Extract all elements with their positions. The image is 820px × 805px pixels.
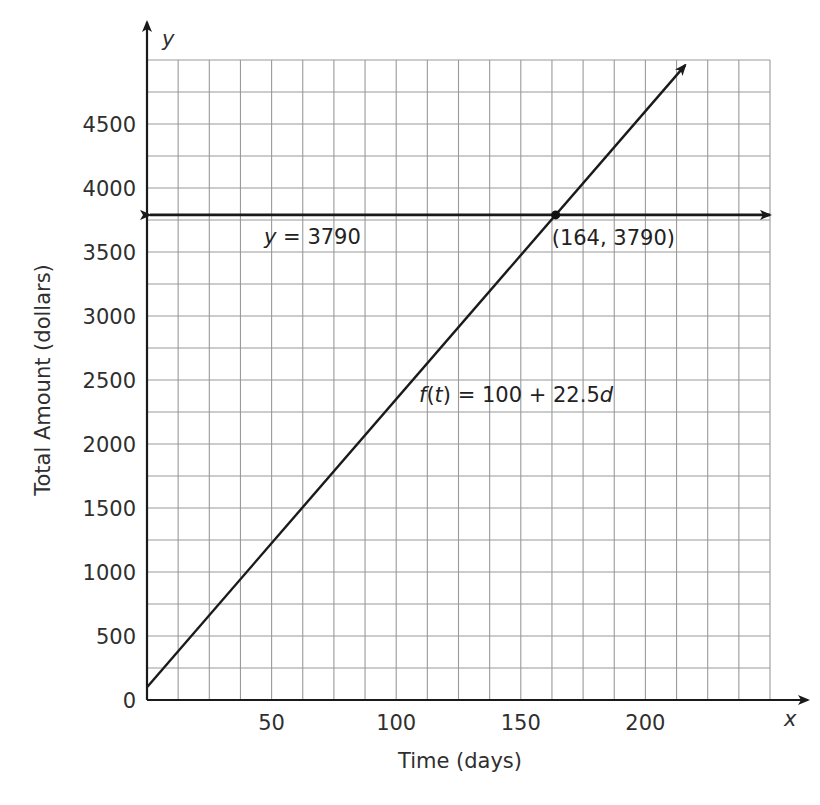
label-y: y: [263, 225, 277, 249]
y-tick-label: 2000: [83, 433, 136, 457]
y-tick-label: 1500: [83, 497, 136, 521]
axes: y x: [147, 22, 808, 731]
x-tick-label: 100: [376, 711, 416, 735]
y-tick-label: 4000: [83, 177, 136, 201]
label-rest: ) = 100 + 22.5: [443, 383, 600, 407]
y-tick-label: 2500: [83, 369, 136, 393]
y-tick-labels: 050010001500200025003000350040004500: [83, 113, 136, 713]
y-axis-title: Total Amount (dollars): [31, 264, 55, 497]
y-tick-label: 4500: [83, 113, 136, 137]
y-tick-label: 500: [96, 625, 136, 649]
x-tick-labels: 50100150200: [258, 711, 665, 735]
linear-function-series: [147, 65, 685, 687]
y-tick-label: 0: [123, 689, 136, 713]
y-tick-label: 3000: [83, 305, 136, 329]
function-label: f(t) = 100 + 22.5d: [419, 383, 614, 407]
x-tick-label: 200: [625, 711, 665, 735]
horizontal-line-label: y = 3790: [263, 225, 361, 249]
x-axis-symbol: x: [783, 707, 797, 731]
y-tick-label: 3500: [83, 241, 136, 265]
label-d: d: [600, 383, 614, 407]
intersection-point-label: (164, 3790): [552, 226, 675, 250]
intersection-point: [551, 210, 560, 219]
label-rest: = 3790: [276, 225, 360, 249]
y-axis-symbol: y: [161, 27, 175, 51]
x-axis-title: Time (days): [397, 749, 522, 773]
label-paren: (: [426, 383, 434, 407]
line-chart: y x 050010001500200025003000350040004500…: [0, 0, 820, 805]
x-tick-label: 50: [258, 711, 285, 735]
x-tick-label: 150: [501, 711, 541, 735]
grid-lines: [147, 60, 770, 700]
y-tick-label: 1000: [83, 561, 136, 585]
